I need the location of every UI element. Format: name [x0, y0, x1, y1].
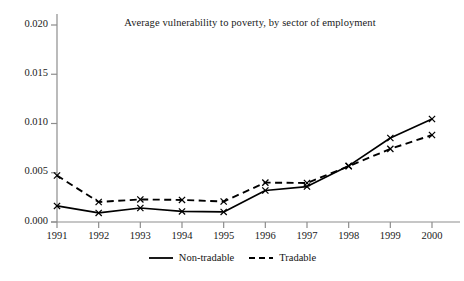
- y-tick-label: 0.015: [4, 67, 48, 78]
- series-line-non-tradable: [57, 119, 432, 213]
- legend-item: Tradable: [248, 252, 316, 263]
- x-tick-label: 2000: [410, 230, 454, 241]
- data-point-marker: [429, 116, 435, 122]
- x-tick-label: 1993: [118, 230, 162, 241]
- y-tick-label: 0.020: [4, 18, 48, 29]
- chart-legend: Non-tradableTradable: [0, 252, 464, 263]
- dashed-line-icon: [248, 253, 274, 263]
- x-tick-label: 1995: [202, 230, 246, 241]
- legend-label: Tradable: [279, 252, 316, 263]
- x-tick-label: 1996: [243, 230, 287, 241]
- legend-label: Non-tradable: [179, 252, 234, 263]
- legend-item: Non-tradable: [148, 252, 234, 263]
- y-tick-label: 0.010: [4, 116, 48, 127]
- chart-figure: Average vulnerability to poverty, by sec…: [0, 0, 464, 281]
- y-tick-label: 0.000: [4, 215, 48, 226]
- series-line-tradable: [57, 135, 432, 202]
- chart-series: [54, 116, 435, 216]
- y-tick-label: 0.005: [4, 165, 48, 176]
- x-tick-label: 1998: [327, 230, 371, 241]
- x-tick-label: 1992: [77, 230, 121, 241]
- x-tick-label: 1991: [35, 230, 79, 241]
- data-point-marker: [387, 135, 393, 141]
- x-tick-label: 1994: [160, 230, 204, 241]
- x-tick-label: 1997: [285, 230, 329, 241]
- x-tick-label: 1999: [368, 230, 412, 241]
- solid-line-icon: [148, 253, 174, 263]
